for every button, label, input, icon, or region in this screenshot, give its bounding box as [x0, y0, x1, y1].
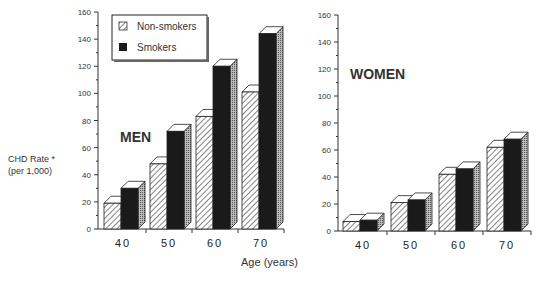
y-axis-label-line2: (per 1,000) — [8, 166, 52, 176]
legend-smokers-swatch — [119, 43, 127, 51]
legend-nonsmokers-swatch — [119, 22, 127, 30]
y-tick-label: 60 — [82, 144, 91, 153]
bar-smokers — [408, 193, 432, 231]
bar-smokers — [456, 162, 480, 231]
y-tick-label: 160 — [318, 11, 332, 20]
y-tick-label: 40 — [82, 171, 91, 180]
x-tick-label: 40 — [115, 237, 131, 249]
y-tick-label: 60 — [322, 146, 331, 155]
y-tick-label: 160 — [78, 8, 92, 17]
legend: Non-smokers Smokers — [112, 15, 209, 62]
x-axis-label: Age (years) — [241, 256, 298, 268]
bar-smokers — [167, 124, 191, 229]
women-title: WOMEN — [350, 66, 405, 82]
men-title: MEN — [120, 129, 151, 145]
y-tick-label: 20 — [322, 200, 331, 209]
y-axis-label-line1: CHD Rate * — [8, 154, 56, 164]
bar-smokers — [259, 27, 283, 229]
legend-smokers-label: Smokers — [137, 42, 176, 53]
women-panel: 02040608010012014016040506070 — [318, 11, 531, 251]
y-tick-label: 120 — [78, 62, 92, 71]
y-tick-label: 140 — [318, 38, 332, 47]
x-tick-label: 60 — [207, 237, 223, 249]
bar-smokers — [121, 181, 145, 229]
y-tick-label: 80 — [82, 117, 91, 126]
x-tick-label: 50 — [161, 237, 177, 249]
y-tick-label: 20 — [82, 198, 91, 207]
y-tick-label: 120 — [318, 65, 332, 74]
x-tick-label: 70 — [499, 239, 515, 251]
y-tick-label: 0 — [87, 225, 92, 234]
legend-nonsmokers-label: Non-smokers — [137, 21, 196, 32]
y-tick-label: 0 — [327, 227, 332, 236]
bar-smokers — [504, 132, 528, 231]
y-tick-label: 140 — [78, 35, 92, 44]
y-tick-label: 80 — [322, 119, 331, 128]
x-tick-label: 50 — [403, 239, 419, 251]
bar-smokers — [213, 59, 237, 229]
x-tick-label: 70 — [253, 237, 269, 249]
y-tick-label: 100 — [318, 92, 332, 101]
x-tick-label: 40 — [355, 239, 371, 251]
chd-chart: 02040608010012014016040506070 0204060801… — [0, 0, 537, 281]
y-tick-label: 40 — [322, 173, 331, 182]
x-tick-label: 60 — [451, 239, 467, 251]
y-tick-label: 100 — [78, 89, 92, 98]
